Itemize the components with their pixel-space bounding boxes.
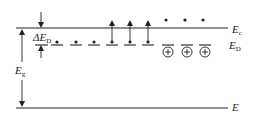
donor-ionization-energy-label: ΔED (33, 32, 51, 45)
neutral-donor (88, 40, 100, 45)
neutral-donor (70, 40, 82, 45)
neutral-donor (106, 23, 118, 45)
ionized-donor (162, 45, 174, 57)
donor-level-label: ED (229, 40, 241, 53)
conduction-electron (201, 18, 204, 21)
ionized-donor-group (162, 45, 211, 57)
conduction-electron (183, 18, 186, 21)
conduction-electron (164, 18, 167, 21)
conduction-electron-group (164, 18, 204, 21)
band-gap-label: Eg (15, 65, 25, 78)
ionized-donor (199, 45, 211, 57)
neutral-donor (51, 40, 63, 45)
neutral-donor (124, 23, 136, 45)
neutral-donor-group (51, 23, 154, 45)
neutral-donor (142, 23, 154, 45)
ionized-donor (181, 45, 193, 57)
conduction-band-label: Ec (232, 24, 242, 37)
valence-band-label: E (232, 102, 239, 115)
energy-band-diagram (0, 0, 256, 120)
